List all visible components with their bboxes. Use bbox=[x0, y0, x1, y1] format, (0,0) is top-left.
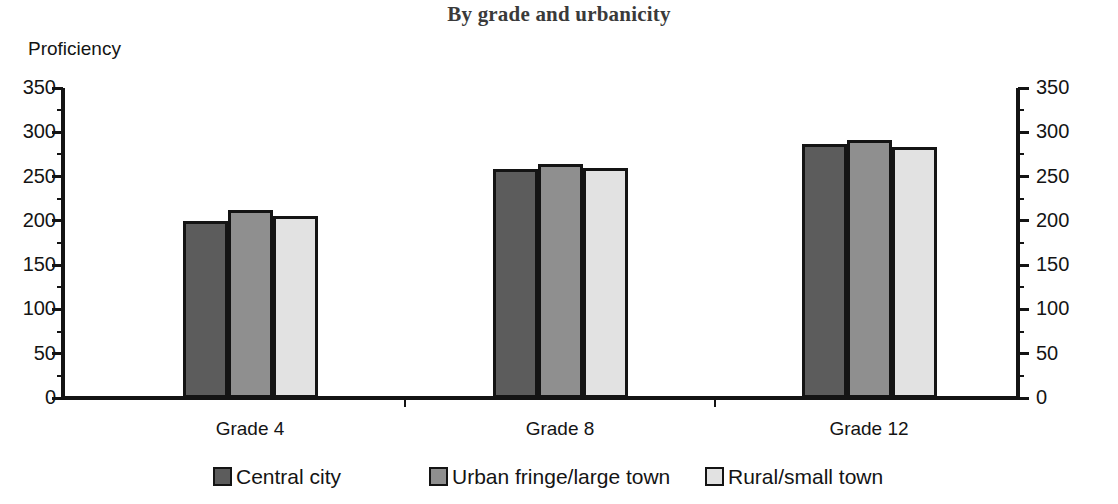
legend-item-label: Urban fringe/large town bbox=[452, 466, 670, 487]
bar-grade-8-central-city bbox=[493, 169, 538, 398]
y-axis-tick-label-right-350: 350 bbox=[1036, 77, 1092, 97]
y-axis-tick-label-right-0: 0 bbox=[1036, 387, 1092, 407]
x-axis-category-label-1: Grade 4 bbox=[150, 418, 350, 440]
y-axis-tick-label-right-100: 100 bbox=[1036, 298, 1092, 318]
y-axis-tick-label-right-150: 150 bbox=[1036, 254, 1092, 274]
y-axis-tick-label-left-100: 100 bbox=[0, 298, 56, 318]
bar-grade-8-rural-small-town bbox=[583, 168, 628, 398]
bar-grade-12-central-city bbox=[802, 144, 847, 398]
bar-grade-12-rural-small-town bbox=[892, 147, 937, 398]
legend-item-rural-small-town[interactable]: Rural/small town bbox=[705, 462, 883, 490]
y-axis-tick-label-left-350: 350 bbox=[0, 77, 56, 97]
plot-area: 0050501001001501502002002502503003003503… bbox=[0, 0, 1118, 504]
y-axis-tick-label-right-300: 300 bbox=[1036, 121, 1092, 141]
legend-swatch-icon bbox=[429, 467, 448, 486]
bar-grade-8-urban-fringe-large-town bbox=[538, 164, 583, 398]
bar-chart: By grade and urbanicity Proficiency 0050… bbox=[0, 0, 1118, 504]
legend-item-central-city[interactable]: Central city bbox=[213, 462, 341, 490]
y-axis-tick-label-left-150: 150 bbox=[0, 254, 56, 274]
y-axis-tick-label-left-200: 200 bbox=[0, 210, 56, 230]
bar-grade-4-central-city bbox=[183, 221, 228, 398]
y-axis-tick-label-right-50: 50 bbox=[1036, 343, 1092, 363]
legend-item-urban-fringe-large-town[interactable]: Urban fringe/large town bbox=[429, 462, 670, 490]
legend-item-label: Central city bbox=[236, 466, 341, 487]
y-axis-tick-label-left-300: 300 bbox=[0, 121, 56, 141]
x-axis-category-label-2: Grade 8 bbox=[460, 418, 660, 440]
legend-item-label: Rural/small town bbox=[728, 466, 883, 487]
bar-grade-4-rural-small-town bbox=[273, 216, 318, 398]
legend-swatch-icon bbox=[213, 467, 232, 486]
y-axis-tick-label-right-200: 200 bbox=[1036, 210, 1092, 230]
y-axis-tick-label-right-250: 250 bbox=[1036, 166, 1092, 186]
y-axis-tick-label-left-50: 50 bbox=[0, 343, 56, 363]
legend-swatch-icon bbox=[705, 467, 724, 486]
chart-legend: Central cityUrban fringe/large townRural… bbox=[0, 462, 1118, 494]
y-axis-tick-label-left-0: 0 bbox=[0, 387, 56, 407]
x-axis-category-label-3: Grade 12 bbox=[769, 418, 969, 440]
bar-grade-4-urban-fringe-large-town bbox=[228, 210, 273, 398]
bar-grade-12-urban-fringe-large-town bbox=[847, 140, 892, 398]
y-axis-tick-label-left-250: 250 bbox=[0, 166, 56, 186]
